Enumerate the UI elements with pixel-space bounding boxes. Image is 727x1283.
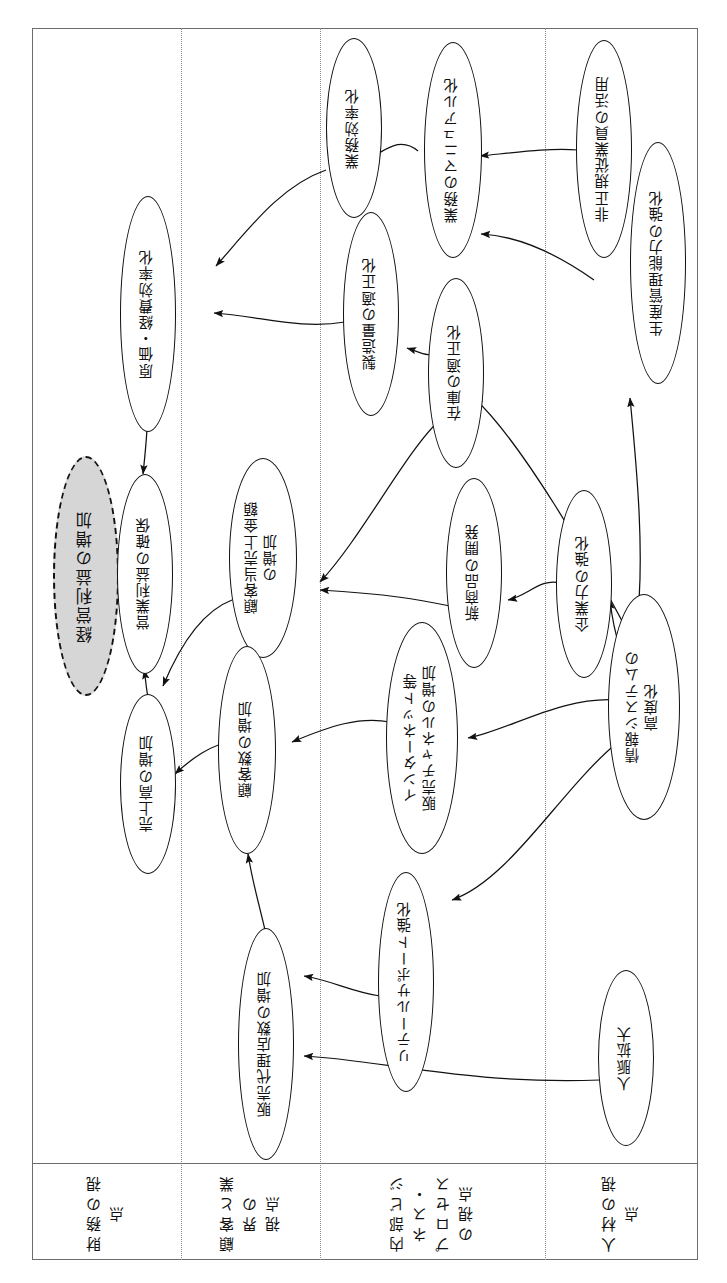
node-label: 業務効率化 (344, 88, 364, 169)
node-label: 営業利益の確保 (135, 517, 155, 630)
node-jouhou-system-no-koudoka[interactable]: 情報システムの 高度化 (608, 594, 680, 820)
node-kokyakusu-no-zouka[interactable]: 顧客数の増加 (218, 646, 276, 854)
node-keiei-rieki-no-zouka[interactable]: 経営利益の増加 (53, 456, 119, 696)
legend-cell-process: 内部ビジネス・ プロセスの視点 (320, 1164, 545, 1261)
node-hanbai-dairiten-su-no-zouka[interactable]: 販売代理店数の増加 (238, 928, 294, 1160)
perspective-divider-1 (181, 28, 182, 1260)
perspective-legend: 財務の視点 顧客と業界の 視点 内部ビジネス・ プロセスの視点 人材の視点 (32, 1163, 698, 1260)
node-gyoumu-no-manual-ka[interactable]: 業務のマニュアル化 (424, 42, 482, 258)
node-eigyo-rieki-no-kakuho[interactable]: 営業利益の確保 (117, 474, 173, 674)
legend-label-people: 人材の視点 (598, 1164, 645, 1261)
node-zaiko-no-tekiseika[interactable]: 在庫の適正化 (428, 278, 484, 468)
node-label: 新商品の開発 (464, 524, 484, 621)
node-shinshouhin-no-kaihatsu[interactable]: 新商品の開発 (446, 478, 502, 668)
legend-cell-financial: 財務の視点 (32, 1164, 181, 1261)
node-genka-keihi-kouritsuka[interactable]: 原価・経費効率化 (120, 196, 176, 432)
node-label: 在庫の適正化 (446, 324, 466, 421)
node-gyoumu-kouritsuka[interactable]: 業務効率化 (326, 38, 382, 218)
perspective-divider-2 (320, 28, 321, 1260)
node-label: 企業力の強化 (574, 535, 594, 632)
legend-cell-customer: 顧客と業界の 視点 (181, 1164, 320, 1261)
node-label: 非正規従業員の活用 (594, 76, 614, 222)
node-label: 原価・経費効率化 (138, 249, 158, 379)
node-jinmyaku-kakudai[interactable]: 人脈拡大 (598, 970, 654, 1146)
node-kokyaku-atari-uriage-kingaku-no-zouka[interactable]: 顧客当売上金額 の増加 (229, 458, 297, 658)
node-label: リテールサポート強化 (396, 901, 416, 1063)
node-hiseiki-juugyouin-no-katsuyou[interactable]: 非正規従業員の活用 (576, 40, 632, 258)
legend-label-financial: 財務の視点 (83, 1164, 130, 1261)
node-label: 売上高の増加 (138, 735, 158, 832)
node-internet-hanbai-channel-no-zouka[interactable]: インターネット等 販売チャネルの増加 (386, 622, 458, 854)
node-kigyouryoku-no-kyouka[interactable]: 企業力の強化 (556, 490, 612, 678)
node-label: 情報システムの 高度化 (624, 650, 663, 763)
legend-cell-people: 人材の視点 (545, 1164, 698, 1261)
node-seizouryou-no-tekiseika[interactable]: 製造量の適正化 (343, 212, 399, 416)
legend-label-process: 内部ビジネス・ プロセスの視点 (386, 1164, 479, 1261)
node-label: 経営利益の増加 (75, 510, 97, 643)
node-seisan-kanri-nouryoku-no-kyouka[interactable]: 生産管理能力の強化 (630, 142, 686, 384)
node-label: 業務のマニュアル化 (443, 77, 463, 223)
node-label: インターネット等 販売チャネルの増加 (402, 665, 441, 811)
node-label: 製造量の適正化 (361, 257, 381, 370)
node-retail-support-kyouka[interactable]: リテールサポート強化 (378, 872, 434, 1092)
perspective-divider-3 (545, 28, 546, 1260)
node-label: 販売代理店数の増加 (256, 971, 276, 1117)
node-label: 生産管理能力の強化 (648, 190, 668, 336)
node-label: 顧客当売上金額 の増加 (243, 501, 282, 614)
node-label: 顧客数の増加 (237, 701, 257, 798)
legend-label-customer: 顧客と業界の 視点 (216, 1164, 286, 1261)
node-label: 人脈拡大 (616, 1026, 636, 1091)
node-uriage-daka-no-zouka[interactable]: 売上高の増加 (120, 694, 176, 874)
